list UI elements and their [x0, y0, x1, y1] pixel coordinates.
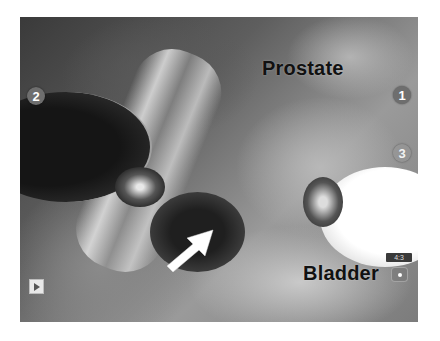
prostate-label: Prostate: [262, 57, 344, 80]
marker-3: 3: [393, 144, 411, 162]
record-icon: [398, 273, 402, 277]
right-instrument-tip: [303, 177, 343, 227]
left-instrument-tip: [115, 167, 165, 207]
marker-1: 1: [393, 86, 411, 104]
record-button[interactable]: [391, 267, 408, 282]
play-icon: [34, 283, 40, 291]
aspect-ratio-badge[interactable]: 4:3: [386, 253, 412, 262]
play-button[interactable]: [29, 279, 44, 294]
bladder-label: Bladder: [303, 262, 379, 285]
arrow-icon: [163, 222, 223, 272]
marker-2: 2: [27, 87, 45, 105]
